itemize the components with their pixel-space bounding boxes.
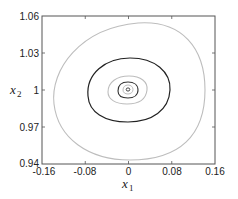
xtick--0.16: -0.16 bbox=[33, 166, 56, 177]
contour-6-inner bbox=[126, 88, 130, 91]
y-axis-label-sub: 2 bbox=[17, 89, 22, 99]
xtick-0.16: 0.16 bbox=[205, 166, 225, 177]
y-axis-label-main: x bbox=[9, 82, 16, 97]
ytick-0.97: 0.97 bbox=[20, 122, 40, 133]
x-axis-label-main: x bbox=[121, 176, 128, 191]
contour-lines bbox=[54, 23, 205, 160]
plot-frame bbox=[42, 16, 215, 164]
contour-3 bbox=[108, 76, 147, 104]
ytick-1.06: 1.06 bbox=[20, 11, 40, 22]
y-ticks bbox=[42, 53, 215, 127]
x-tick-labels: -0.16 -0.08 0 0.08 0.16 bbox=[33, 166, 226, 177]
x-axis-label-sub: 1 bbox=[129, 183, 134, 193]
y-axis-label: x 2 bbox=[9, 82, 22, 99]
x-ticks bbox=[85, 16, 172, 164]
x-axis-label: x 1 bbox=[121, 176, 134, 193]
xtick-0.08: 0.08 bbox=[162, 166, 182, 177]
contour-2 bbox=[88, 58, 170, 122]
ytick-1.03: 1.03 bbox=[20, 48, 40, 59]
ytick-1: 1 bbox=[33, 85, 39, 96]
y-tick-labels: 1.06 1.03 1 0.97 0.94 bbox=[20, 11, 40, 169]
contour-5 bbox=[123, 85, 133, 94]
contour-1-outer bbox=[54, 23, 205, 160]
contour-chart: 1.06 1.03 1 0.97 0.94 -0.16 -0.08 0 0.08… bbox=[0, 0, 238, 199]
xtick--0.08: -0.08 bbox=[74, 166, 97, 177]
contour-4 bbox=[118, 82, 138, 98]
